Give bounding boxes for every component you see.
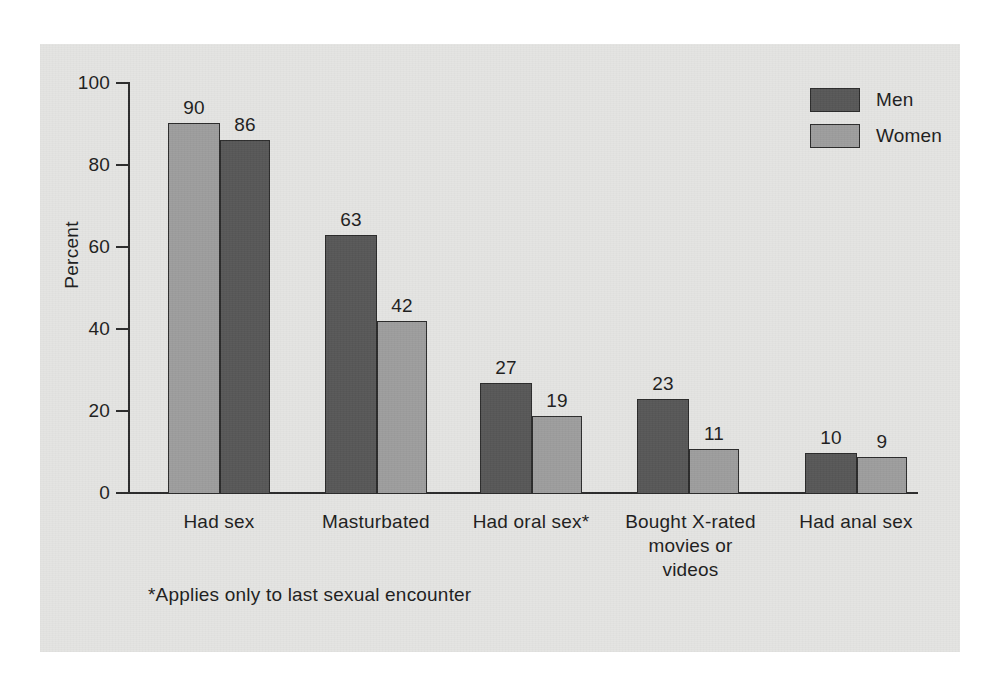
bar-value-had-anal-sex-men: 10: [805, 427, 857, 449]
bar-value-had-oral-sex-men: 27: [480, 357, 532, 379]
y-tick-40: [116, 328, 128, 330]
bar-value-bought-x-rated-women: 11: [689, 423, 739, 445]
legend-item-men: Men: [810, 82, 942, 118]
legend-swatch-women: [810, 124, 860, 148]
bar-value-masturbated-women: 42: [377, 295, 427, 317]
category-label-line: videos: [603, 558, 778, 582]
category-label-bought-x-rated: Bought X-rated movies or videos: [603, 510, 778, 582]
bar-had-anal-sex-men: [805, 453, 857, 494]
legend-swatch-men: [810, 88, 860, 112]
y-tick-label-100: 100: [40, 72, 110, 94]
category-label-line: movies or: [603, 534, 778, 558]
y-tick-label-80: 80: [40, 154, 110, 176]
legend-label-women: Women: [876, 125, 942, 147]
y-tick-label-40: 40: [40, 318, 110, 340]
footnote: *Applies only to last sexual encounter: [148, 584, 471, 606]
bar-had-oral-sex-men: [480, 383, 532, 494]
category-label-line: Had oral sex*: [451, 510, 611, 534]
y-tick-60: [116, 246, 128, 248]
legend-item-women: Women: [810, 118, 942, 154]
bar-masturbated-men: [325, 235, 377, 494]
category-label-masturbated: Masturbated: [296, 510, 456, 534]
y-tick-0: [116, 492, 128, 494]
bar-value-bought-x-rated-men: 23: [637, 373, 689, 395]
y-tick-label-0: 0: [40, 482, 110, 504]
y-tick-100: [116, 82, 128, 84]
category-label-line: Masturbated: [296, 510, 456, 534]
legend-label-men: Men: [876, 89, 914, 111]
chart-panel: Percent 100 80 60 40 20 0 90 86 Had sex: [40, 44, 960, 652]
y-tick-20: [116, 410, 128, 412]
bar-bought-x-rated-women: [689, 449, 739, 494]
bar-had-oral-sex-women: [532, 416, 582, 494]
bar-value-masturbated-men: 63: [325, 209, 377, 231]
category-label-line: Had anal sex: [776, 510, 936, 534]
bar-had-sex-women: [220, 140, 270, 494]
category-label-line: Bought X-rated: [603, 510, 778, 534]
legend: Men Women: [810, 82, 942, 154]
y-tick-80: [116, 164, 128, 166]
y-axis-line: [128, 82, 130, 494]
bar-value-had-sex-men: 90: [168, 97, 220, 119]
category-label-had-oral-sex: Had oral sex*: [451, 510, 611, 534]
plot-area: Percent 100 80 60 40 20 0 90 86 Had sex: [40, 44, 960, 652]
category-label-line: Had sex: [139, 510, 299, 534]
bar-value-had-oral-sex-women: 19: [532, 390, 582, 412]
chart-page: Percent 100 80 60 40 20 0 90 86 Had sex: [0, 0, 990, 680]
bar-had-sex-men: [168, 123, 220, 494]
bar-had-anal-sex-women: [857, 457, 907, 494]
bar-bought-x-rated-men: [637, 399, 689, 494]
bar-masturbated-women: [377, 321, 427, 494]
bar-value-had-anal-sex-women: 9: [857, 431, 907, 453]
category-label-had-anal-sex: Had anal sex: [776, 510, 936, 534]
category-label-had-sex: Had sex: [139, 510, 299, 534]
bar-value-had-sex-women: 86: [220, 114, 270, 136]
y-tick-label-60: 60: [40, 236, 110, 258]
y-tick-label-20: 20: [40, 400, 110, 422]
